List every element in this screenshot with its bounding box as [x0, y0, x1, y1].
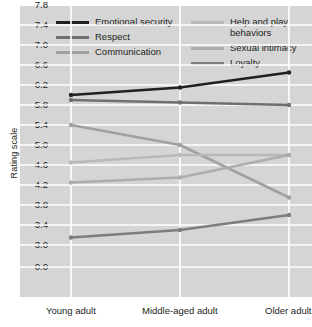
series-marker: [69, 180, 73, 184]
y-axis-tick-label: 0.0: [22, 262, 48, 272]
series-marker: [287, 153, 291, 157]
series-line: [71, 155, 289, 163]
legend-label: Emotional security: [95, 16, 173, 27]
y-axis-title: Rating scale: [9, 108, 19, 198]
series-marker: [287, 195, 291, 199]
series-marker: [178, 153, 182, 157]
y-axis-tick-label: 5.4: [22, 120, 48, 130]
series-marker: [178, 143, 182, 147]
legend-label: Help and play behaviors: [230, 16, 312, 38]
series-marker: [178, 228, 182, 232]
y-axis-tick-label: 3.4: [22, 220, 48, 230]
series-marker: [178, 85, 182, 89]
line-chart-figure: Rating scale 7.87.47.06.66.25.85.45.04.6…: [0, 0, 312, 327]
series-marker: [287, 153, 291, 157]
legend-label: Communication: [95, 46, 161, 57]
x-axis-tick-label: Middle-aged adult: [142, 305, 218, 316]
y-axis-tick-label: 4.2: [22, 180, 48, 190]
series-marker: [69, 98, 73, 102]
legend-color-swatch: [56, 36, 89, 39]
series-marker: [287, 103, 291, 107]
series-marker: [69, 160, 73, 164]
y-axis-tick-label: 5.0: [22, 140, 48, 150]
y-axis-tick-label: 3.8: [22, 200, 48, 210]
series-marker: [69, 235, 73, 239]
series-marker: [69, 93, 73, 97]
series-line: [71, 155, 289, 183]
y-axis-tick-label: 7.4: [22, 20, 48, 30]
legend-color-swatch: [191, 21, 224, 24]
series-line: [71, 215, 289, 238]
y-axis-tick-label: 7.8: [22, 0, 48, 10]
plot-area: [51, 83, 309, 294]
legend-color-swatch: [56, 21, 89, 24]
y-axis-tick-label: 7.0: [22, 40, 48, 50]
series-marker: [287, 213, 291, 217]
legend-color-swatch: [191, 62, 224, 65]
data-series-group: [69, 70, 291, 239]
series-marker: [178, 100, 182, 104]
y-axis-tick-label: 6.6: [22, 60, 48, 70]
series-marker: [69, 123, 73, 127]
x-axis-tick-label: Young adult: [46, 305, 96, 316]
y-axis-tick-label: 6.2: [22, 80, 48, 90]
legend-color-swatch: [56, 51, 89, 54]
chart-legend: Emotional securityRespectCommunication H…: [51, 16, 309, 78]
series-line: [71, 100, 289, 105]
legend-label: Loyalty: [230, 57, 260, 68]
series-line: [71, 125, 289, 198]
y-axis-tick-label: 4.6: [22, 160, 48, 170]
series-marker: [178, 175, 182, 179]
legend-label: Sexual intimacy: [230, 42, 297, 53]
y-axis-tick-label: 3.0: [22, 240, 48, 250]
legend-label: Respect: [95, 31, 130, 42]
y-axis-tick-label: 5.8: [22, 100, 48, 110]
x-axis-tick-label: Older adult: [265, 305, 311, 316]
legend-color-swatch: [191, 47, 224, 50]
